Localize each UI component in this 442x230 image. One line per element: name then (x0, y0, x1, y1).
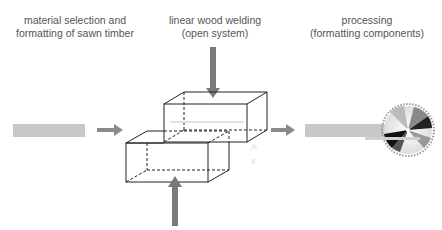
faint-marks: A x (251, 142, 257, 166)
force-arrow-up-icon (168, 176, 182, 226)
svg-text:x: x (251, 156, 256, 166)
diagram-graphics: A x (0, 0, 442, 230)
arrow-right-icon (271, 124, 295, 136)
arrow-right-icon (97, 124, 123, 136)
process-diagram: material selection and formatting of saw… (0, 0, 442, 230)
cut-strip (365, 137, 420, 140)
force-arrow-down-icon (206, 47, 220, 98)
component-bar-icon (305, 124, 385, 137)
circular-saw-icon (382, 104, 434, 156)
welded-blocks-icon (126, 92, 267, 182)
timber-bar-icon (13, 124, 85, 137)
svg-text:A: A (251, 142, 257, 152)
